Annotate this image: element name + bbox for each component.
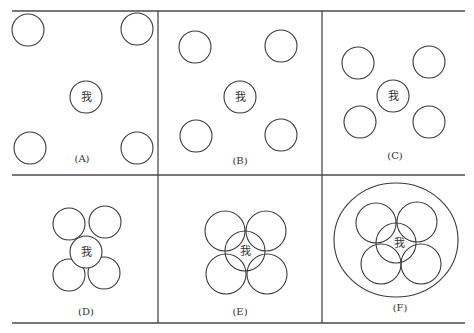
- panel-label: (E): [232, 306, 247, 317]
- other-circle: [413, 46, 445, 78]
- panel-label: (A): [74, 153, 89, 164]
- other-circle: [401, 244, 441, 284]
- panel-label: (D): [78, 306, 94, 317]
- other-circle: [179, 31, 211, 63]
- other-circle: [53, 208, 85, 240]
- self-char: 我: [235, 91, 246, 104]
- other-circle: [121, 132, 153, 164]
- panel-f: 我 (F): [334, 183, 458, 313]
- panel-c: 我 (C): [342, 46, 445, 161]
- other-circle: [121, 13, 153, 45]
- other-circle: [12, 14, 44, 46]
- other-circle: [247, 254, 287, 294]
- panel-label: (C): [387, 150, 403, 161]
- other-circle: [206, 254, 246, 294]
- panel-e: 我 (E): [205, 211, 287, 317]
- other-circle: [413, 106, 445, 138]
- self-char: 我: [388, 90, 399, 103]
- self-char: 我: [394, 237, 405, 250]
- panel-a: 我 (A): [12, 13, 153, 164]
- other-circle: [14, 132, 46, 164]
- other-circle: [361, 244, 401, 284]
- self-char: 我: [81, 91, 92, 104]
- other-circle: [246, 211, 286, 251]
- panel-label: (F): [393, 302, 408, 313]
- other-circle: [342, 47, 374, 79]
- other-circle: [356, 203, 396, 243]
- other-circle: [265, 119, 297, 151]
- diagram-canvas: 我 (A) 我 (B) 我 (C) 我 (D): [0, 0, 474, 333]
- self-char: 我: [81, 246, 92, 259]
- panel-label: (B): [232, 155, 247, 166]
- other-circle: [89, 206, 121, 238]
- other-circle: [265, 30, 297, 62]
- self-char: 我: [240, 245, 251, 258]
- other-circle: [344, 106, 376, 138]
- panel-d: 我 (D): [53, 206, 121, 317]
- panel-b: 我 (B): [179, 30, 297, 166]
- other-circle: [397, 202, 437, 242]
- other-circle: [180, 120, 212, 152]
